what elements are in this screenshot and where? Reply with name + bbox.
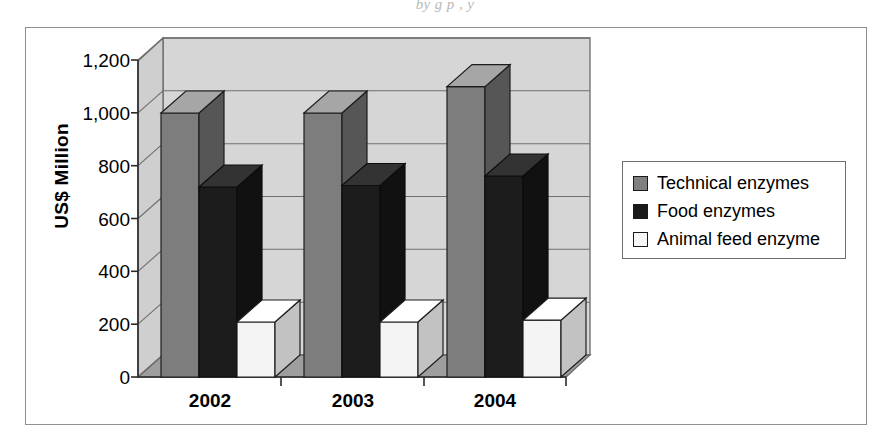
chart-legend: Technical enzymes Food enzymes Animal fe…: [622, 161, 846, 259]
x-tick-2003: 2003: [298, 390, 408, 412]
y-tick-1200: 1,200: [56, 51, 130, 70]
y-axis-tick-labels: 1,200 1,000 800 600 400 200 0: [38, 0, 130, 446]
y-tick-1000: 1,000: [56, 104, 130, 123]
y-tick-800: 800: [56, 157, 130, 176]
legend-item-technical-enzymes: Technical enzymes: [633, 169, 845, 197]
legend-label-animal-feed-enzyme: Animal feed enzyme: [657, 230, 820, 248]
y-tick-200: 200: [56, 315, 130, 334]
legend-item-food-enzymes: Food enzymes: [633, 197, 845, 225]
legend-label-technical-enzymes: Technical enzymes: [657, 174, 809, 192]
y-tick-600: 600: [56, 210, 130, 229]
legend-item-animal-feed-enzyme: Animal feed enzyme: [633, 225, 845, 253]
legend-swatch-technical-enzymes: [633, 176, 648, 191]
y-tick-400: 400: [56, 262, 130, 281]
x-tick-marks: [281, 377, 566, 386]
legend-swatch-animal-feed-enzyme: [633, 232, 648, 247]
y-tick-0: 0: [56, 368, 130, 387]
legend-swatch-food-enzymes: [633, 204, 648, 219]
legend-label-food-enzymes: Food enzymes: [657, 202, 775, 220]
y-tick-marks: [131, 60, 138, 377]
x-tick-2002: 2002: [155, 390, 265, 412]
x-tick-2004: 2004: [440, 390, 550, 412]
